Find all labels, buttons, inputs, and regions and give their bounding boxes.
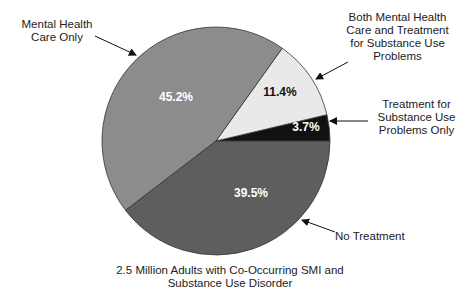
label-line: Mental Health xyxy=(12,18,102,31)
label-line: Care Only xyxy=(12,31,102,44)
value-label-substance-only: 3.7% xyxy=(292,120,319,134)
value-label-both: 11.4% xyxy=(263,85,296,99)
chart-caption: 2.5 Million Adults with Co-Occurring SMI… xyxy=(60,264,400,290)
label-substance-only: Treatment for Substance Use Problems Onl… xyxy=(369,98,464,137)
label-no-treatment: No Treatment xyxy=(335,230,415,243)
label-line: Both Mental Health xyxy=(335,11,460,24)
value-label-mental-health-only: 45.2% xyxy=(159,90,193,104)
label-line: for Substance Use xyxy=(335,37,460,50)
value-label-no-treatment: 39.5% xyxy=(234,186,268,200)
label-line: Care and Treatment xyxy=(335,24,460,37)
label-line: Problems Only xyxy=(369,124,464,137)
label-mental-health-only: Mental Health Care Only xyxy=(12,18,102,44)
caption-line-2: Substance Use Disorder xyxy=(60,277,400,290)
label-line: Treatment for xyxy=(369,98,464,111)
arrow-both xyxy=(316,62,348,79)
label-line: Problems xyxy=(335,50,460,63)
label-line: No Treatment xyxy=(335,230,415,243)
pie-slices xyxy=(102,27,330,255)
label-line: Substance Use xyxy=(369,111,464,124)
label-both: Both Mental Health Care and Treatment fo… xyxy=(335,11,460,63)
arrow-no-treatment xyxy=(302,220,335,232)
caption-line-1: 2.5 Million Adults with Co-Occurring SMI… xyxy=(60,264,400,277)
